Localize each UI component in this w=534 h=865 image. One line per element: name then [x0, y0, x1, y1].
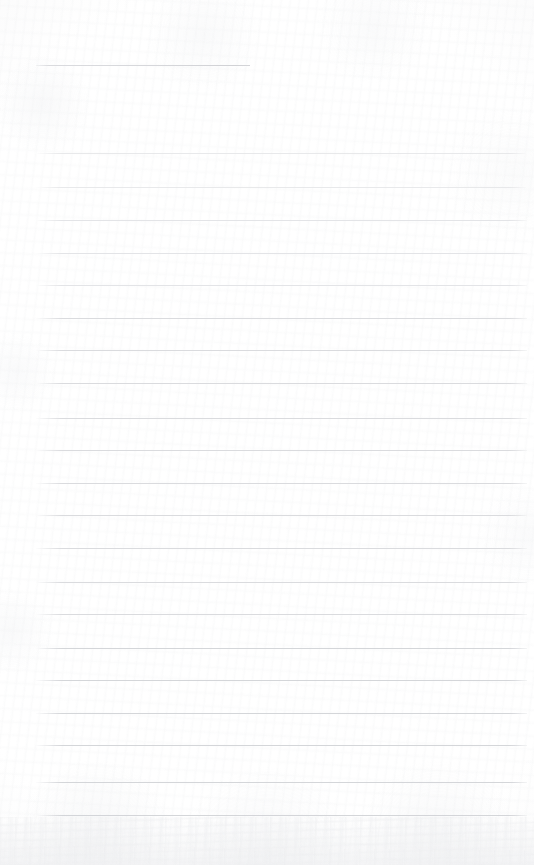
ruled-line	[36, 745, 527, 746]
notepad-page	[0, 0, 534, 865]
ruled-line	[36, 548, 527, 549]
ruled-line	[36, 483, 527, 484]
ruled-line	[36, 187, 526, 188]
ruled-line	[36, 153, 526, 154]
ruled-line	[36, 713, 527, 714]
ruled-line	[36, 782, 527, 783]
ruled-line	[36, 220, 527, 221]
ruled-line	[36, 350, 527, 351]
ruled-line	[36, 253, 527, 254]
headline-rule	[36, 65, 250, 66]
ruled-line	[36, 614, 527, 615]
ruled-line	[36, 450, 527, 451]
ruled-line	[36, 285, 527, 286]
ruled-line	[36, 815, 527, 816]
ruled-line	[36, 582, 527, 583]
ruled-line	[36, 680, 527, 681]
ruled-line	[36, 383, 527, 384]
ruled-lines-layer	[0, 0, 534, 865]
ruled-line	[36, 648, 527, 649]
ruled-line	[36, 418, 527, 419]
ruled-line	[36, 318, 527, 319]
ruled-line	[36, 515, 527, 516]
